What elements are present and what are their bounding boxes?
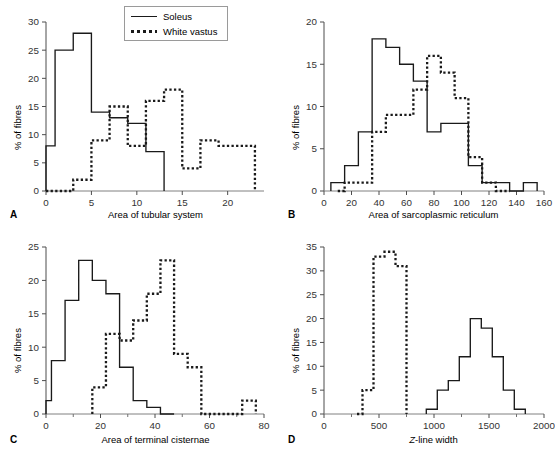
y-tick-label: 15 bbox=[306, 59, 317, 70]
y-tick-label: 25 bbox=[28, 45, 39, 56]
legend: Soleus White vastus bbox=[124, 6, 228, 41]
y-tick-label: 5 bbox=[34, 375, 40, 386]
y-tick-label: 15 bbox=[28, 308, 39, 319]
dotted-line-swatch-icon bbox=[130, 27, 158, 37]
x-tick-label: 20 bbox=[222, 197, 233, 208]
x-tick-label: 1000 bbox=[423, 420, 445, 431]
series-line-soleus bbox=[46, 260, 174, 414]
x-tick-label: 40 bbox=[150, 420, 161, 431]
x-tick-label: 15 bbox=[177, 197, 188, 208]
y-tick-label: 15 bbox=[306, 337, 317, 348]
x-tick-label: 80 bbox=[259, 420, 270, 431]
y-tick-label: 20 bbox=[28, 275, 39, 286]
x-tick-label: 160 bbox=[536, 197, 553, 208]
panel-b: % of fibres 0510152002040608010012014016… bbox=[278, 0, 555, 224]
panel-b-plot: 05101520020406080100120140160 bbox=[278, 0, 555, 224]
panel-a-x-axis-label: Area of tubular system bbox=[0, 209, 277, 220]
y-tick-label: 10 bbox=[28, 342, 39, 353]
y-tick-label: 15 bbox=[28, 101, 39, 112]
x-tick-label: 20 bbox=[346, 197, 357, 208]
x-tick-label: 100 bbox=[453, 197, 470, 208]
x-tick-label: 5 bbox=[89, 197, 95, 208]
x-tick-label: 60 bbox=[204, 420, 215, 431]
x-tick-label: 80 bbox=[429, 197, 440, 208]
panel-c: % of fibres 0510152025020406080 C Area o… bbox=[0, 225, 277, 449]
x-tick-label: 500 bbox=[371, 420, 388, 431]
legend-item-white-vastus: White vastus bbox=[130, 24, 227, 39]
panel-d-x-axis-label: Z-line width bbox=[278, 434, 555, 445]
y-tick-label: 20 bbox=[306, 313, 317, 324]
series-line-white-vastus bbox=[357, 252, 407, 414]
y-tick-label: 0 bbox=[34, 185, 40, 196]
x-tick-label: 60 bbox=[401, 197, 412, 208]
y-tick-label: 30 bbox=[306, 265, 317, 276]
panel-d-plot: 051015202530350500100015002000 bbox=[278, 225, 555, 449]
y-tick-label: 30 bbox=[28, 16, 39, 27]
x-tick-label: 0 bbox=[43, 197, 49, 208]
panel-c-plot: 0510152025020406080 bbox=[0, 225, 277, 449]
series-line-white-vastus bbox=[338, 56, 510, 191]
y-tick-label: 25 bbox=[306, 289, 317, 300]
panel-b-x-axis-label: Area of sarcoplasmic reticulum bbox=[278, 209, 555, 220]
legend-item-soleus: Soleus bbox=[130, 9, 227, 24]
y-tick-label: 20 bbox=[28, 73, 39, 84]
y-tick-label: 10 bbox=[306, 101, 317, 112]
legend-label-white-vastus: White vastus bbox=[163, 26, 217, 37]
series-line-white-vastus bbox=[92, 260, 256, 414]
y-tick-label: 20 bbox=[306, 16, 317, 27]
panel-d: % of fibres 0510152025303505001000150020… bbox=[278, 225, 555, 449]
x-tick-label: 140 bbox=[508, 197, 525, 208]
figure-root: % of fibres 05101520253005101520 Soleus … bbox=[0, 0, 555, 449]
series-line-soleus bbox=[331, 39, 537, 191]
series-line-white-vastus bbox=[46, 90, 255, 191]
xlabel-italic-prefix: Z bbox=[409, 434, 415, 445]
y-tick-label: 25 bbox=[28, 241, 39, 252]
legend-label-soleus: Soleus bbox=[163, 11, 192, 22]
y-tick-label: 5 bbox=[34, 157, 40, 168]
x-tick-label: 120 bbox=[481, 197, 498, 208]
x-tick-label: 0 bbox=[321, 197, 327, 208]
x-tick-label: 1500 bbox=[478, 420, 500, 431]
panel-c-x-axis-label: Area of terminal cisternae bbox=[0, 434, 277, 445]
x-tick-label: 10 bbox=[131, 197, 142, 208]
y-tick-label: 0 bbox=[312, 408, 318, 419]
y-tick-label: 5 bbox=[312, 385, 318, 396]
x-tick-label: 0 bbox=[321, 420, 327, 431]
y-tick-label: 0 bbox=[312, 185, 318, 196]
y-tick-label: 10 bbox=[28, 129, 39, 140]
x-tick-label: 20 bbox=[95, 420, 106, 431]
x-tick-label: 40 bbox=[374, 197, 385, 208]
y-tick-label: 0 bbox=[34, 408, 40, 419]
x-tick-label: 0 bbox=[43, 420, 49, 431]
panel-a: % of fibres 05101520253005101520 Soleus … bbox=[0, 0, 277, 224]
solid-line-swatch-icon bbox=[130, 12, 158, 22]
y-tick-label: 35 bbox=[306, 241, 317, 252]
y-tick-label: 5 bbox=[312, 143, 318, 154]
series-line-soleus bbox=[426, 319, 525, 414]
y-tick-label: 10 bbox=[306, 361, 317, 372]
x-tick-label: 2000 bbox=[533, 420, 555, 431]
